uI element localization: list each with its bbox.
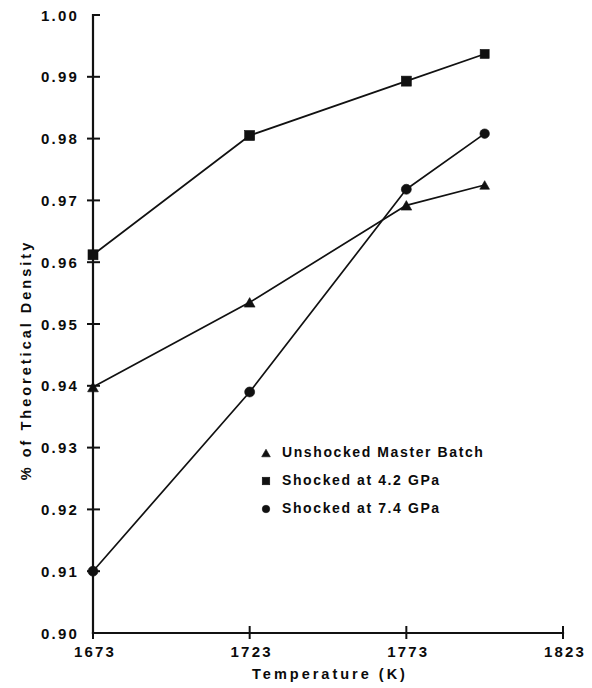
data-point-square-marker [401, 76, 411, 86]
legend-entry-label: Unshocked Master Batch [282, 444, 484, 460]
chart-legend: Unshocked Master BatchShocked at 4.2 GPa… [262, 444, 485, 516]
series-polyline [93, 185, 485, 387]
legend-triangle-icon [262, 449, 271, 457]
y-axis-tick-labels: 0.900.910.920.930.940.950.960.970.980.99… [41, 7, 79, 642]
series-group [88, 49, 489, 259]
x-axis-title: Temperature (K) [252, 666, 408, 682]
data-point-triangle-marker [480, 181, 490, 190]
data-point-square-marker [88, 250, 98, 260]
chart-figure: 0.900.910.920.930.940.950.960.970.980.99… [0, 0, 592, 688]
legend-entry: Shocked at 4.2 GPa [262, 472, 441, 488]
x-axis-tick-label: 1823 [544, 643, 586, 660]
legend-entry: Shocked at 7.4 GPa [262, 500, 441, 516]
legend-circle-icon [262, 505, 270, 513]
data-point-square-marker [480, 49, 489, 58]
y-axis-title: % of Theoretical Density [18, 240, 34, 480]
legend-entry: Unshocked Master Batch [262, 444, 485, 460]
y-axis-tick-label: 0.90 [41, 625, 79, 642]
x-axis-tick-label: 1773 [387, 643, 429, 660]
data-point-circle-marker [88, 566, 98, 576]
y-axis-tick-label: 0.97 [41, 192, 79, 209]
legend-square-icon [262, 477, 270, 485]
series-polyline [93, 54, 485, 255]
data-point-square-marker [245, 131, 255, 141]
x-axis-tick-label: 1673 [74, 643, 116, 660]
chart-canvas: 0.900.910.920.930.940.950.960.970.980.99… [0, 0, 592, 688]
legend-entry-label: Shocked at 4.2 GPa [282, 472, 441, 488]
y-axis-tick-label: 0.99 [41, 68, 79, 85]
y-axis-tick-label: 0.95 [41, 316, 79, 333]
y-axis-tick-label: 0.98 [41, 130, 79, 147]
y-axis-tick-label: 0.92 [41, 501, 79, 518]
y-axis-tick-label: 0.91 [41, 563, 79, 580]
x-axis-tick-label: 1723 [231, 643, 273, 660]
x-axis-tick-labels: 1673172317731823 [74, 643, 586, 660]
y-axis-tick-label: 0.93 [41, 439, 79, 456]
data-point-circle-marker [480, 129, 490, 139]
data-point-circle-marker [245, 387, 255, 397]
y-axis-tick-label: 1.00 [41, 7, 79, 24]
y-axis-tick-label: 0.94 [41, 377, 79, 394]
series-layer [88, 49, 490, 576]
data-point-triangle-marker [401, 201, 412, 211]
y-axis-tick-label: 0.96 [41, 254, 79, 271]
legend-entry-label: Shocked at 7.4 GPa [282, 500, 441, 516]
data-point-circle-marker [401, 184, 411, 194]
data-point-triangle-marker [88, 382, 99, 392]
